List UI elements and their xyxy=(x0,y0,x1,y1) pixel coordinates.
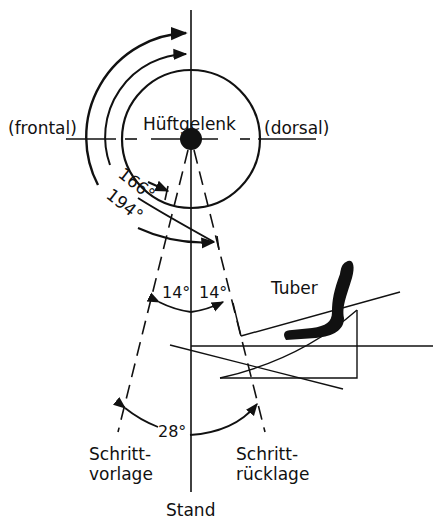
label-frontal: (frontal) xyxy=(8,118,77,138)
label-schrittvorlage-1: Schritt- xyxy=(89,444,151,464)
tuber-shape xyxy=(284,261,354,340)
arc-166 xyxy=(105,54,186,165)
tick-194 xyxy=(217,236,219,250)
label-dorsal: (dorsal) xyxy=(264,118,329,138)
arc-14-left xyxy=(159,302,191,312)
tick-166 xyxy=(165,186,168,200)
arc-28-left xyxy=(125,408,158,427)
label-hueftgelenk: Hüftgelenk xyxy=(143,114,236,134)
label-schrittvorlage-2: vorlage xyxy=(89,464,153,484)
label-tuber: Tuber xyxy=(270,278,318,298)
label-stand: Stand xyxy=(166,500,215,520)
label-angle-28: 28° xyxy=(158,422,186,441)
arc-14-right xyxy=(191,302,223,312)
hip-angle-diagram: Hüftgelenk (frontal) (dorsal) 166° 194° … xyxy=(0,0,442,532)
arc-28-right xyxy=(190,404,257,435)
label-angle-14-left: 14° xyxy=(162,283,190,302)
arc-194-lower xyxy=(138,198,214,242)
pelvis-construction xyxy=(170,292,433,389)
label-schrittruecklage-1: Schritt- xyxy=(236,444,298,464)
label-schrittruecklage-2: rücklage xyxy=(236,464,309,484)
label-angle-14-right: 14° xyxy=(199,283,227,302)
